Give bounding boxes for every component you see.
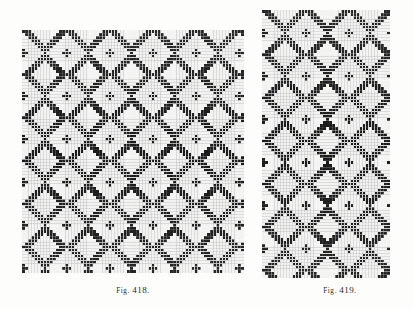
figure-419-weave-draft xyxy=(262,10,390,278)
page-background: Fig. 418. Fig. 419. xyxy=(0,0,414,309)
weave-grid-419 xyxy=(262,10,390,278)
figure-419-caption: Fig. 419. xyxy=(266,285,414,295)
figure-418-weave-draft xyxy=(22,30,244,273)
figure-418-caption: Fig. 418. xyxy=(0,285,266,295)
weave-grid-418 xyxy=(22,30,244,273)
figure-418-caption-prefix: Fig. xyxy=(116,287,129,295)
figure-418-caption-number: 418. xyxy=(132,285,149,295)
figure-419-caption-prefix: Fig. xyxy=(323,287,336,295)
figure-419-caption-number: 419. xyxy=(339,285,356,295)
